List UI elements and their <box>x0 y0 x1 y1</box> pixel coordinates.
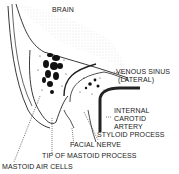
label-styloid-process: STYLOID PROCESS <box>97 131 165 139</box>
styloid-drawing <box>88 110 96 142</box>
label-artery: ARTERY <box>114 123 143 131</box>
label-facial-nerve: FACIAL NERVE <box>70 141 121 149</box>
label-internal: INTERNAL <box>114 107 149 115</box>
mastoid-outline <box>29 50 68 124</box>
label-venous-sinus-lateral: (LATERAL) <box>118 76 154 84</box>
label-carotid: CAROTID <box>114 115 146 123</box>
label-venous-sinus: VENOUS SINUS <box>116 68 170 76</box>
label-mastoid-air-cells: MASTOID AIR CELLS <box>2 163 73 171</box>
mastoid-air-cells-drawing <box>42 53 100 94</box>
label-tip-of-mastoid: TIP OF MASTOID PROCESS <box>42 152 137 160</box>
facial-nerve-drawing <box>64 110 74 128</box>
brain-region <box>16 4 128 72</box>
anatomy-diagram: BRAIN VENOUS SINUS (LATERAL) INTERNAL CA… <box>0 0 179 174</box>
label-brain: BRAIN <box>52 6 74 14</box>
